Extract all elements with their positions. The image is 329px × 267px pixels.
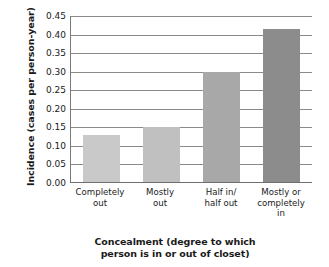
bar	[263, 29, 300, 183]
y-axis-tick-label: 0.00	[36, 178, 66, 188]
y-axis-tick-label: 0.15	[36, 122, 66, 132]
y-axis-tick-label: 0.05	[36, 159, 66, 169]
y-axis-tick-label: 0.40	[36, 30, 66, 40]
x-axis-category-label: Mostly out	[130, 187, 190, 208]
x-axis-category-label: Completely out	[70, 187, 130, 208]
y-axis-tick-label: 0.30	[36, 67, 66, 77]
y-axis-tick-label: 0.35	[36, 48, 66, 58]
bar-series	[71, 16, 312, 183]
y-axis-tick-labels: 0.450.400.350.300.250.200.150.100.050.00	[36, 11, 66, 187]
x-axis-category-labels: Completely outMostly outHalf in/ half ou…	[70, 187, 311, 229]
bar	[143, 127, 180, 183]
y-axis-tick-label: 0.20	[36, 104, 66, 114]
bar-chart-figure: Incidence (cases per person-year) 0.450.…	[0, 0, 329, 267]
plot-area	[70, 16, 311, 183]
y-axis-tick-label: 0.25	[36, 85, 66, 95]
x-axis-title: Concealment (degree to which person is i…	[40, 236, 310, 259]
x-axis-line	[71, 182, 312, 183]
y-axis-tick-label: 0.10	[36, 141, 66, 151]
y-axis-tick-label: 0.45	[36, 11, 66, 21]
x-axis-category-label: Mostly or completely in	[251, 187, 311, 219]
x-axis-category-label: Half in/ half out	[191, 187, 251, 208]
bar	[83, 135, 120, 183]
bar	[203, 72, 240, 183]
